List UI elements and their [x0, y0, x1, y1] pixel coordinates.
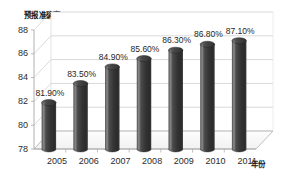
x-axis-tick-label: 2010 [199, 157, 233, 166]
y-axis-tick-label: 86 [6, 49, 28, 58]
bar-value-label: 83.50% [60, 70, 104, 79]
x-axis-title: 年份 [251, 158, 265, 169]
x-axis-tick-label: 2006 [72, 157, 106, 166]
y-axis-tick-label: 84 [6, 73, 28, 82]
y-axis-tick-label: 78 [6, 145, 28, 154]
y-axis-tick-label: 82 [6, 97, 28, 106]
bar-value-label: 87.10% [218, 27, 262, 36]
x-axis-tick-label: 2005 [40, 157, 74, 166]
x-axis-tick-label: 2009 [167, 157, 201, 166]
bar-value-label: 85.60% [123, 45, 167, 54]
bar-chart: 预报准确率 % 788082848688 20052006200 [0, 0, 293, 173]
bar-value-label: 81.90% [28, 89, 72, 98]
bar-value-label: 84.90% [91, 53, 135, 62]
x-axis-tick-label: 2007 [103, 157, 137, 166]
y-axis-tick-label: 88 [6, 26, 28, 35]
y-axis-tick-label: 80 [6, 121, 28, 130]
x-axis-tick-label: 2008 [135, 157, 169, 166]
